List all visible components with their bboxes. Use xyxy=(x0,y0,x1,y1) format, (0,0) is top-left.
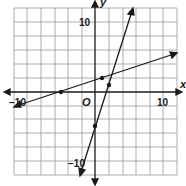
point-neg5-0 xyxy=(59,90,63,94)
x-axis xyxy=(4,89,182,95)
y-axis xyxy=(92,1,98,185)
y-axis-label: y xyxy=(99,0,107,8)
point-0-neg5 xyxy=(93,124,97,128)
x-axis-label: x xyxy=(179,78,186,90)
point-2-1 xyxy=(107,83,111,87)
point-1-2 xyxy=(100,76,104,80)
origin-label: O xyxy=(82,96,91,108)
x-tick-10: 10 xyxy=(157,97,169,108)
y-tick-10: 10 xyxy=(79,17,91,28)
coordinate-plane: y x O 10 −10 10 −10 xyxy=(0,0,186,186)
